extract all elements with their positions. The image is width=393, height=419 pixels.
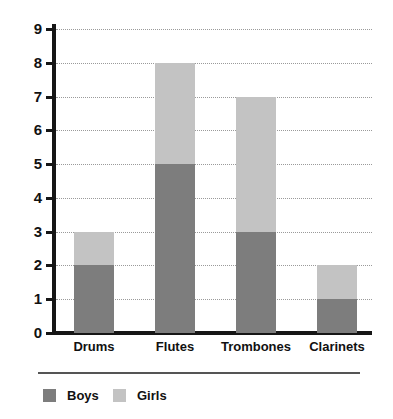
x-axis-tick-label: Clarinets bbox=[277, 340, 393, 353]
bar-segment-girls bbox=[317, 265, 357, 299]
y-axis-tick-label: 1 bbox=[18, 291, 42, 306]
y-axis-tick-label: 8 bbox=[18, 55, 42, 70]
bar-segment-boys bbox=[155, 164, 195, 333]
y-axis-tick-label: 9 bbox=[18, 21, 42, 36]
y-axis-tick-label: 0 bbox=[18, 325, 42, 340]
legend-label: Girls bbox=[137, 389, 167, 402]
legend-item: Girls bbox=[113, 386, 167, 404]
legend-swatch-girls bbox=[113, 389, 126, 402]
bar-segment-girls bbox=[74, 232, 114, 266]
plot-area bbox=[56, 26, 372, 333]
bar-stack bbox=[317, 265, 357, 333]
y-axis-tick-label: 5 bbox=[18, 156, 42, 171]
y-axis-tick-label: 6 bbox=[18, 122, 42, 137]
bar-segment-boys bbox=[317, 299, 357, 333]
legend-swatch-boys bbox=[43, 389, 56, 402]
bar-stack bbox=[236, 97, 276, 333]
bar-stack bbox=[155, 63, 195, 333]
bar-segment-girls bbox=[155, 63, 195, 164]
bar-segment-boys bbox=[74, 265, 114, 333]
y-axis-tick-label: 2 bbox=[18, 257, 42, 272]
legend-divider bbox=[38, 372, 360, 374]
legend-item: Boys bbox=[43, 386, 99, 404]
y-axis-tick-label: 7 bbox=[18, 89, 42, 104]
y-axis-tick-label: 4 bbox=[18, 190, 42, 205]
stacked-bar-chart: 9876543210 DrumsFlutesTrombonesClarinets… bbox=[0, 0, 393, 419]
y-axis-tick-label: 3 bbox=[18, 224, 42, 239]
bar-segment-boys bbox=[236, 232, 276, 333]
bar-stack bbox=[74, 232, 114, 333]
bar-segment-girls bbox=[236, 97, 276, 232]
legend-label: Boys bbox=[67, 389, 99, 402]
